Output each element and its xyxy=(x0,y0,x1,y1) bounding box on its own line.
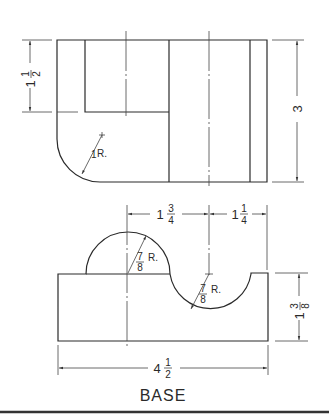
svg-text:2: 2 xyxy=(31,71,42,77)
dim-label-corner-radius-suffix: R. xyxy=(97,148,107,159)
svg-text:4: 4 xyxy=(241,215,247,226)
svg-text:8: 8 xyxy=(200,294,206,305)
dim-label-right-spacing: 1 1 4 xyxy=(231,203,248,226)
svg-text:1: 1 xyxy=(241,203,247,214)
dim-label-boss-radius: 7 8 R. xyxy=(136,251,158,273)
top-view-notch xyxy=(85,40,169,112)
svg-text:R.: R. xyxy=(211,284,221,295)
drawing-title: BASE xyxy=(140,387,187,404)
front-view-outline xyxy=(58,232,268,341)
svg-text:3: 3 xyxy=(289,303,300,309)
dim-label-center-spacing: 1 3 4 xyxy=(156,203,175,226)
svg-text:R.: R. xyxy=(148,252,158,263)
svg-text:8: 8 xyxy=(137,262,143,273)
front-view: 1 3 4 1 1 4 7 8 R. 7 8 R. xyxy=(58,203,311,380)
svg-text:2: 2 xyxy=(165,369,171,380)
dim-label-height: 1 3 8 xyxy=(289,302,311,320)
svg-text:3: 3 xyxy=(290,105,305,112)
svg-text:7: 7 xyxy=(200,283,206,294)
svg-text:1: 1 xyxy=(23,80,38,87)
technical-drawing: 1 1 2 3 1 R. 1 3 4 xyxy=(0,0,329,419)
dim-label-overall-width: 4 1 2 xyxy=(153,357,172,380)
dim-label-slot-radius: 7 8 R. xyxy=(199,283,221,305)
svg-text:1: 1 xyxy=(292,312,307,319)
dim-label-left-height: 1 1 2 xyxy=(20,70,42,88)
svg-text:7: 7 xyxy=(137,251,143,262)
svg-text:1: 1 xyxy=(231,207,238,222)
top-view: 1 1 2 3 1 R. xyxy=(20,31,305,186)
svg-text:1: 1 xyxy=(156,207,163,222)
svg-text:1: 1 xyxy=(20,71,31,77)
dim-label-overall-height: 3 xyxy=(290,105,305,112)
svg-text:8: 8 xyxy=(300,303,311,309)
svg-text:4: 4 xyxy=(153,361,160,376)
svg-text:4: 4 xyxy=(168,215,174,226)
svg-text:1: 1 xyxy=(165,357,171,368)
svg-text:3: 3 xyxy=(168,203,174,214)
